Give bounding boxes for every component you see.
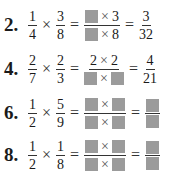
fraction-b: 18 [56,139,65,172]
equals-sign: = [131,146,140,164]
problem-number: 6. [4,102,26,124]
times-sign: × [42,104,51,122]
equals-sign: = [131,104,140,122]
blank-box[interactable] [85,10,98,23]
problem-8: 8. 12 × 18 = × × = [4,135,162,175]
times-sign: × [42,16,51,34]
product-fraction: × × [84,97,126,130]
blank-box[interactable] [111,72,124,85]
blank-box[interactable] [146,115,159,128]
blank-box[interactable] [146,141,159,154]
times-sign: × [42,60,51,78]
equals-sign: = [125,16,134,34]
fraction-a: 12 [28,97,37,130]
result-fraction [145,99,160,128]
blank-box[interactable] [85,116,98,129]
problem-6: 6. 12 × 59 = × × = [4,93,162,133]
equals-sign: = [70,16,79,34]
blank-box[interactable] [146,99,159,112]
problem-4: 4. 27 × 23 = 2×2 × = 421 [4,49,159,89]
equals-sign: = [70,146,79,164]
times-sign: × [42,146,51,164]
equals-sign: = [129,60,138,78]
fraction-b: 23 [56,53,65,86]
blank-box[interactable] [112,116,125,129]
blank-box[interactable] [85,158,98,171]
blank-box[interactable] [85,98,98,111]
blank-box[interactable] [112,158,125,171]
product-fraction: ×3 ×8 [84,9,120,42]
equals-sign: = [70,104,79,122]
problem-2: 2. 14 × 38 = ×3 ×8 = 332 [4,5,155,45]
result-fraction: 332 [139,9,153,42]
product-fraction: 2×2 × [84,53,124,86]
fraction-a: 12 [28,139,37,172]
blank-box[interactable] [84,72,97,85]
problem-number: 4. [4,58,26,80]
blank-box[interactable] [85,140,98,153]
blank-box[interactable] [112,140,125,153]
product-fraction: × × [84,139,126,172]
result-fraction: 421 [143,53,157,86]
result-fraction [145,141,160,170]
blank-box[interactable] [85,28,98,41]
fraction-a: 14 [28,9,37,42]
blank-box[interactable] [112,98,125,111]
fraction-a: 27 [28,53,37,86]
fraction-b: 59 [56,97,65,130]
blank-box[interactable] [146,157,159,170]
problem-number: 8. [4,144,26,166]
equals-sign: = [70,60,79,78]
problem-number: 2. [4,14,26,36]
fraction-b: 38 [56,9,65,42]
